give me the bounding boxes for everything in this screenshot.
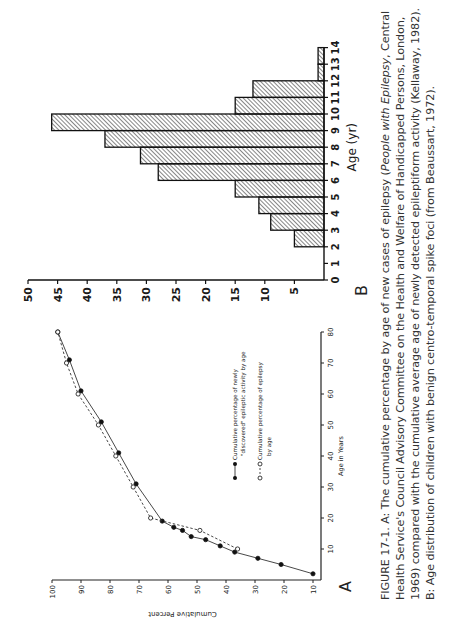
svg-text:20: 20 — [327, 514, 335, 523]
series-discovered-activity — [56, 330, 315, 576]
svg-text:50: 50 — [194, 585, 202, 594]
svg-text:10: 10 — [327, 545, 335, 554]
svg-text:40: 40 — [81, 287, 94, 303]
svg-text:100: 100 — [49, 585, 57, 598]
svg-text:3: 3 — [330, 227, 341, 234]
svg-text:6: 6 — [330, 177, 341, 184]
svg-text:20: 20 — [200, 287, 213, 303]
svg-text:13: 13 — [330, 57, 341, 71]
svg-text:5: 5 — [288, 287, 301, 295]
x-axis-label-a: Age in Years — [337, 435, 345, 475]
bar-age-13-14 — [318, 48, 324, 65]
bar-age-9-10 — [52, 114, 324, 131]
svg-text:9: 9 — [330, 127, 341, 134]
svg-text:30: 30 — [140, 287, 153, 303]
svg-text:30: 30 — [327, 483, 335, 492]
bar-age-10-11 — [235, 97, 324, 114]
bar-age-6-7 — [158, 164, 324, 181]
rotated-page: 1020304050607080102030405060708090100Age… — [0, 0, 472, 636]
caption-line-4: B: Age distribution of children with ben… — [423, 0, 438, 600]
legend-a: Cumulative percentage of newly"discovere… — [232, 351, 273, 480]
svg-text:10: 10 — [310, 585, 318, 594]
caption-line-1: FIGURE 17-1. A: The cumulative percentag… — [378, 0, 393, 600]
svg-text:35: 35 — [111, 287, 124, 302]
svg-text:30: 30 — [252, 585, 260, 594]
bars — [52, 48, 324, 247]
svg-text:50: 50 — [327, 421, 335, 430]
svg-text:45: 45 — [52, 287, 65, 302]
svg-text:7: 7 — [330, 160, 341, 167]
svg-text:40: 40 — [327, 452, 335, 461]
figure-caption: FIGURE 17-1. A: The cumulative percentag… — [378, 0, 438, 600]
bar-age-5-6 — [235, 180, 324, 197]
svg-text:20: 20 — [281, 585, 289, 594]
svg-text:14: 14 — [330, 41, 341, 55]
svg-text:10: 10 — [259, 287, 272, 303]
svg-text:"discovered" epileptic activit: "discovered" epileptic activity by age — [240, 351, 247, 456]
chart-a-cumulative-percent: 1020304050607080102030405060708090100Age… — [0, 316, 380, 636]
svg-text:by age: by age — [266, 436, 273, 456]
svg-text:4: 4 — [330, 210, 341, 217]
svg-text:80: 80 — [107, 585, 115, 594]
svg-text:60: 60 — [165, 585, 173, 594]
svg-text:90: 90 — [78, 585, 86, 594]
bar-age-12-13 — [318, 64, 324, 81]
svg-text:8: 8 — [330, 144, 341, 151]
svg-text:1: 1 — [330, 260, 341, 267]
svg-text:2: 2 — [330, 243, 341, 250]
svg-text:25: 25 — [170, 287, 183, 302]
svg-text:70: 70 — [327, 359, 335, 368]
bar-age-7-8 — [140, 147, 324, 164]
caption-line-2: Health Service's Council Advisory Commit… — [393, 0, 408, 600]
svg-text:Cumulative percentage of epile: Cumulative percentage of epilepsy — [257, 361, 264, 460]
bar-age-4-5 — [259, 197, 324, 214]
panel-a-label: A — [336, 581, 355, 592]
svg-text:60: 60 — [327, 390, 335, 399]
panel-b-label: B — [352, 285, 371, 296]
svg-text:12: 12 — [330, 74, 341, 88]
svg-text:10: 10 — [330, 107, 341, 121]
axes-a: 1020304050607080102030405060708090100Age… — [49, 328, 346, 618]
svg-text:40: 40 — [223, 585, 231, 594]
svg-text:11: 11 — [330, 90, 341, 104]
svg-text:Cumulative percentage of newly: Cumulative percentage of newly — [232, 368, 239, 460]
bar-age-3-4 — [271, 214, 324, 231]
svg-text:15: 15 — [229, 287, 242, 302]
svg-text:70: 70 — [136, 585, 144, 594]
chart-b-age-distribution: 510152025303540455001234567891011121314A… — [0, 0, 380, 318]
svg-text:50: 50 — [22, 287, 35, 303]
svg-text:80: 80 — [327, 328, 335, 337]
bar-age-8-9 — [105, 131, 324, 148]
svg-text:5: 5 — [330, 193, 341, 200]
bar-age-2-3 — [294, 230, 324, 247]
svg-text:0: 0 — [330, 276, 341, 283]
x-axis-label-b: Age (yr) — [345, 123, 359, 171]
caption-line-3: 1969) compared with the cumulative avera… — [408, 0, 423, 600]
series-epilepsy — [56, 330, 240, 551]
bar-age-11-12 — [253, 81, 324, 98]
y-axis-label-a: Cumulative Percent — [148, 610, 217, 618]
